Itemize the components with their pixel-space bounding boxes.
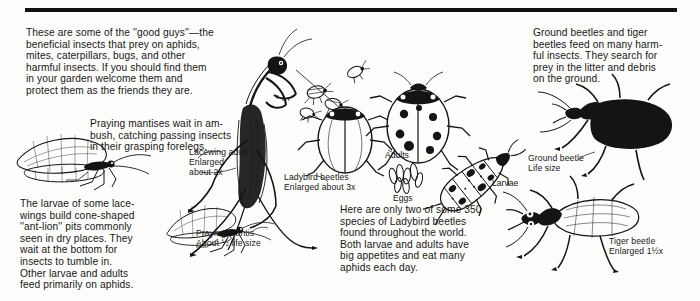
lacewing-larvae-text-block: The larvae of some lace- wings build con… xyxy=(20,198,200,291)
ladybird-eggs-illustration xyxy=(388,163,424,194)
eggs-label: Eggs xyxy=(393,193,413,203)
ladybird-beetles-caption: Ladybird beetles Enlarged about 3x xyxy=(284,172,355,192)
intro-text-block: These are some of the ''good guys''—the … xyxy=(26,27,326,97)
ground-tiger-text-block: Ground beetles and tiger beetles feed on… xyxy=(533,27,700,85)
ground-beetle-caption: Ground beetle Life size xyxy=(528,153,584,173)
tiger-beetle-caption: Tiger beetle Enlarged 1½x xyxy=(609,236,663,256)
illustrated-page: These are some of the ''good guys''—the … xyxy=(0,0,700,301)
praying-mantis-caption: Praying mantis About ½ life size xyxy=(196,228,261,248)
top-rule-divider xyxy=(25,8,677,12)
lacewing-adult-caption: Lacewing adult Enlarged about 2x xyxy=(189,147,248,177)
larvae-label: Larvae xyxy=(492,178,518,188)
ladybird-text-block: Here are only two of some 350 species of… xyxy=(340,204,570,274)
adults-label: Adults xyxy=(385,150,409,160)
ladybird-beetle-spotted-illustration xyxy=(366,72,470,170)
